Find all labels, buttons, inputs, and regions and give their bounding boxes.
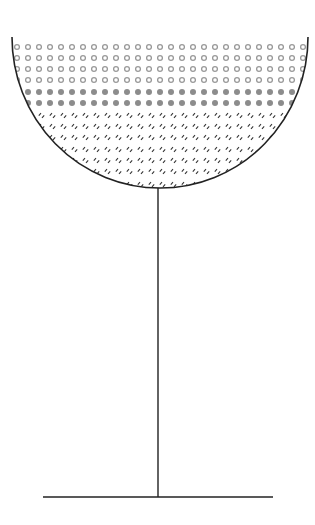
hatch-mark bbox=[193, 158, 195, 160]
solid-dot bbox=[102, 100, 108, 106]
hatch-mark bbox=[240, 184, 242, 186]
hollow-dot bbox=[224, 56, 229, 61]
hatch-mark bbox=[149, 182, 151, 184]
hatch-mark bbox=[119, 137, 121, 139]
hollow-dot bbox=[15, 45, 20, 50]
hollow-dot bbox=[125, 56, 130, 61]
hatch-mark bbox=[149, 158, 151, 160]
hatch-mark bbox=[141, 137, 143, 139]
hatch-mark bbox=[284, 160, 286, 162]
hatch-mark bbox=[17, 158, 19, 160]
solid-dot bbox=[157, 89, 163, 95]
hatch-mark bbox=[86, 171, 88, 173]
solid-dot bbox=[14, 100, 20, 106]
hatch-mark bbox=[64, 184, 66, 186]
hatch-mark bbox=[83, 182, 85, 184]
hatch-mark bbox=[75, 184, 77, 186]
hatch-mark bbox=[185, 160, 187, 162]
hatch-mark bbox=[306, 160, 308, 162]
hollow-dot bbox=[81, 67, 86, 72]
hatch-mark bbox=[193, 124, 195, 126]
hollow-dot bbox=[191, 56, 196, 61]
hollow-dot bbox=[158, 45, 163, 50]
hatch-mark bbox=[108, 126, 110, 128]
hatch-mark bbox=[61, 113, 63, 115]
solid-dot bbox=[146, 89, 152, 95]
hollow-dot bbox=[224, 67, 229, 72]
hatch-mark bbox=[39, 135, 41, 137]
hatch-mark bbox=[83, 135, 85, 137]
hatch-mark bbox=[306, 126, 308, 128]
hatch-mark bbox=[292, 113, 294, 115]
hollow-dot bbox=[37, 78, 42, 83]
solid-dot bbox=[69, 89, 75, 95]
solid-dot bbox=[80, 89, 86, 95]
hollow-dot bbox=[213, 67, 218, 72]
solid-dot bbox=[179, 89, 185, 95]
hatch-mark bbox=[61, 182, 63, 184]
hollow-dot bbox=[37, 45, 42, 50]
hatch-mark bbox=[185, 171, 187, 173]
hatch-mark bbox=[152, 149, 154, 151]
hollow-dot bbox=[48, 45, 53, 50]
hatch-mark bbox=[127, 147, 129, 149]
solid-dot bbox=[234, 100, 240, 106]
hatch-mark bbox=[229, 160, 231, 162]
hatch-mark bbox=[237, 113, 239, 115]
hollow-dot bbox=[114, 56, 119, 61]
hatch-mark bbox=[163, 115, 165, 117]
hatch-mark bbox=[163, 137, 165, 139]
hatch-mark bbox=[237, 169, 239, 171]
solid-dot bbox=[256, 100, 262, 106]
solid-dot bbox=[212, 100, 218, 106]
hatch-mark bbox=[218, 184, 220, 186]
hollow-dot bbox=[114, 45, 119, 50]
hatch-mark bbox=[39, 182, 41, 184]
hatch-mark bbox=[105, 147, 107, 149]
hatch-mark bbox=[273, 171, 275, 173]
hatch-mark bbox=[97, 184, 99, 186]
hollow-dot bbox=[26, 56, 31, 61]
hatch-mark bbox=[207, 126, 209, 128]
solid-dot bbox=[91, 89, 97, 95]
hatch-mark bbox=[160, 182, 162, 184]
solid-dot bbox=[124, 89, 130, 95]
hatch-mark bbox=[196, 160, 198, 162]
hatch-mark bbox=[229, 137, 231, 139]
hollow-dot bbox=[125, 78, 130, 83]
hatch-mark bbox=[303, 147, 305, 149]
hatch-mark bbox=[72, 124, 74, 126]
hatch-mark bbox=[39, 158, 41, 160]
hatch-mark bbox=[237, 182, 239, 184]
hatch-mark bbox=[251, 171, 253, 173]
hatch-mark bbox=[182, 147, 184, 149]
hatch-mark bbox=[292, 124, 294, 126]
hatch-mark bbox=[281, 182, 283, 184]
hatch-mark bbox=[75, 149, 77, 151]
hatch-mark bbox=[273, 184, 275, 186]
hatch-mark bbox=[196, 184, 198, 186]
hatch-mark bbox=[72, 147, 74, 149]
hatch-mark bbox=[127, 124, 129, 126]
hollow-dot bbox=[92, 45, 97, 50]
hatch-mark bbox=[39, 113, 41, 115]
hatch-mark bbox=[251, 149, 253, 151]
hatch-mark bbox=[182, 158, 184, 160]
hatch-mark bbox=[20, 149, 22, 151]
hatch-mark bbox=[86, 115, 88, 117]
hatch-mark bbox=[127, 113, 129, 115]
hatch-mark bbox=[141, 160, 143, 162]
hollow-dot bbox=[180, 67, 185, 72]
hollow-dot bbox=[224, 78, 229, 83]
hatch-mark bbox=[273, 160, 275, 162]
hatch-mark bbox=[273, 137, 275, 139]
hatch-mark bbox=[97, 149, 99, 151]
hatch-mark bbox=[28, 135, 30, 137]
hatch-mark bbox=[262, 149, 264, 151]
hatch-mark bbox=[28, 124, 30, 126]
hatch-mark bbox=[204, 158, 206, 160]
hatch-mark bbox=[141, 171, 143, 173]
hatch-mark bbox=[182, 113, 184, 115]
hatch-mark bbox=[306, 137, 308, 139]
hollow-dot bbox=[169, 56, 174, 61]
